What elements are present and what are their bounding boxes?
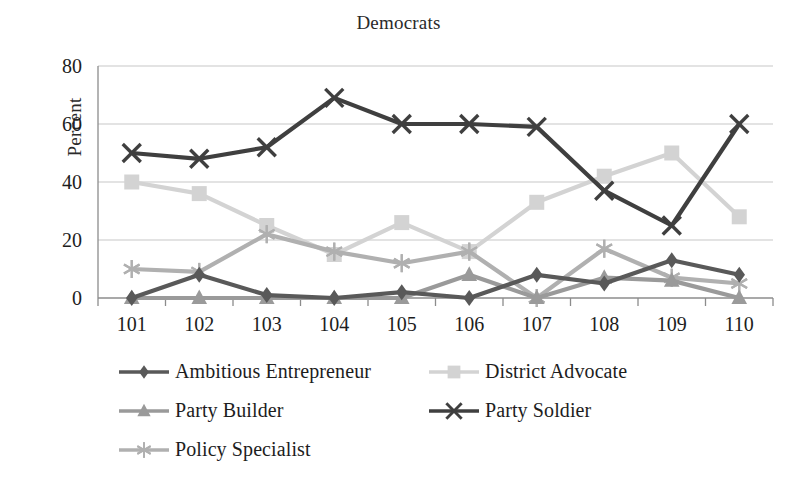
svg-text:110: 110 — [725, 313, 754, 335]
svg-text:0: 0 — [72, 287, 82, 309]
legend-item-policy-specialist[interactable]: Policy Specialist — [118, 438, 428, 461]
chart-container: Democrats Percent 020406080 101102103104… — [0, 0, 797, 489]
svg-text:105: 105 — [387, 313, 417, 335]
svg-text:40: 40 — [62, 171, 82, 193]
data-series-group — [123, 89, 749, 307]
svg-text:103: 103 — [252, 313, 282, 335]
legend-swatch-asterisk-icon — [118, 439, 170, 461]
legend-swatch-triangle-icon — [118, 400, 170, 422]
legend-item-district-advocate[interactable]: District Advocate — [428, 360, 627, 383]
legend-label: Ambitious Entrepreneur — [175, 360, 371, 383]
legend-item-party-builder[interactable]: Party Builder — [118, 399, 428, 422]
svg-text:20: 20 — [62, 229, 82, 251]
chart-legend: Ambitious Entrepreneur District Advocate… — [118, 352, 718, 469]
svg-text:104: 104 — [319, 313, 349, 335]
legend-label: District Advocate — [485, 360, 627, 383]
legend-item-ambitious-entrepreneur[interactable]: Ambitious Entrepreneur — [118, 360, 428, 383]
svg-text:102: 102 — [184, 313, 214, 335]
legend-swatch-diamond-icon — [118, 361, 170, 383]
svg-text:101: 101 — [117, 313, 147, 335]
svg-text:106: 106 — [454, 313, 484, 335]
legend-swatch-x-icon — [428, 400, 480, 422]
legend-label: Party Builder — [175, 399, 284, 422]
legend-row: Ambitious Entrepreneur District Advocate — [118, 352, 718, 391]
y-axis-tick-labels: 020406080 — [62, 55, 82, 309]
legend-row: Party Builder Party Soldier — [118, 391, 718, 430]
svg-text:109: 109 — [657, 313, 687, 335]
legend-row: Policy Specialist — [118, 430, 718, 469]
legend-label: Policy Specialist — [175, 438, 311, 461]
x-axis-tick-labels: 101102103104105106107108109110 — [117, 313, 754, 335]
svg-text:80: 80 — [62, 55, 82, 77]
series-district-advocate — [124, 146, 747, 263]
legend-label: Party Soldier — [485, 399, 591, 422]
svg-text:107: 107 — [522, 313, 552, 335]
legend-item-party-soldier[interactable]: Party Soldier — [428, 399, 591, 422]
svg-text:108: 108 — [589, 313, 619, 335]
legend-swatch-square-icon — [428, 361, 480, 383]
svg-text:60: 60 — [62, 113, 82, 135]
series-party-soldier — [123, 89, 749, 235]
